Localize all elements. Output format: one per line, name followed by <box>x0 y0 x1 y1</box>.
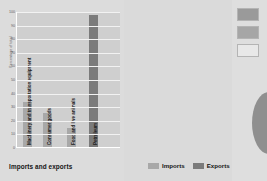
grid-line <box>17 134 120 135</box>
legend-label: Exports <box>207 162 230 169</box>
grid-line <box>17 80 120 81</box>
y-tick-label: 60 <box>5 64 15 68</box>
legend-item[interactable]: Imports <box>148 162 185 169</box>
bar[interactable]: Consumer goods <box>43 113 52 147</box>
swatch-empty[interactable] <box>237 44 259 57</box>
bar-chart: Percentage of total 01020304050607080901… <box>0 0 124 181</box>
legend-swatch <box>193 163 204 169</box>
y-tick-label: 80 <box>5 37 15 41</box>
x-axis-title: Imports and exports <box>9 163 72 170</box>
y-axis-ticks: 0102030405060708090100 <box>5 12 15 148</box>
y-tick-label: 90 <box>5 24 15 28</box>
y-tick-label: 10 <box>5 132 15 136</box>
grid-line <box>17 26 120 27</box>
y-tick-label: 30 <box>5 105 15 109</box>
legend-item[interactable]: Exports <box>193 162 230 169</box>
grid-line <box>17 121 120 122</box>
bar-category-label: Machinery and transportation equipment <box>27 58 32 145</box>
y-tick-label: 100 <box>5 10 15 14</box>
grid-line <box>17 94 120 95</box>
y-tick-label: 70 <box>5 51 15 55</box>
grid-line <box>17 66 120 67</box>
grid-line <box>17 53 120 54</box>
legend-label: Imports <box>162 162 185 169</box>
swatch-filled-dark[interactable] <box>237 8 259 21</box>
right-side-panel <box>232 0 267 181</box>
y-tick-label: 50 <box>5 78 15 82</box>
y-tick-label: 0 <box>5 146 15 150</box>
grid-line <box>17 39 120 40</box>
y-tick-label: 20 <box>5 119 15 123</box>
bar[interactable]: Petroleum <box>89 15 98 147</box>
bar[interactable]: Machinery and transportation equipment <box>23 102 32 147</box>
bar[interactable]: Food and live animals <box>67 128 76 147</box>
grid-line <box>17 107 120 108</box>
y-tick-label: 40 <box>5 92 15 96</box>
legend-swatch <box>148 163 159 169</box>
oval-shape <box>252 92 267 154</box>
plot-area: Machinery and transportation equipmentCo… <box>16 12 120 148</box>
swatch-filled-light[interactable] <box>237 26 259 39</box>
grid-line <box>17 12 120 13</box>
chart-legend: ImportsExports <box>148 162 230 169</box>
chart-screen: Percentage of total 01020304050607080901… <box>0 0 267 181</box>
bar-category-label: Consumer goods <box>47 108 52 145</box>
